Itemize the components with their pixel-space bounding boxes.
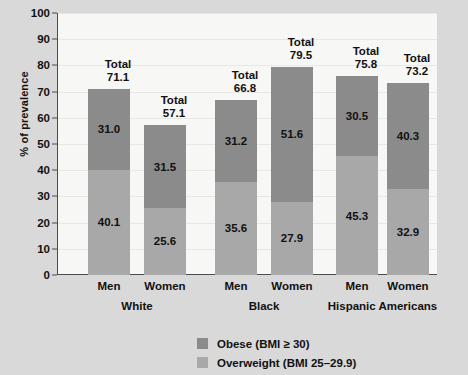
total-prefix: Total <box>353 45 380 57</box>
bar-value-overweight: 35.6 <box>215 222 257 234</box>
y-tick-mark <box>52 196 57 197</box>
total-prefix: Total <box>232 69 259 81</box>
x-tick-label-women: Women <box>378 280 438 292</box>
x-tick-label-men: Men <box>79 280 139 292</box>
legend-label: Overweight (BMI 25–29.9) <box>217 357 356 369</box>
gridline <box>57 39 437 40</box>
y-tick-mark <box>52 91 57 92</box>
total-prefix: Total <box>288 36 315 48</box>
bar-value-overweight: 27.9 <box>271 232 313 244</box>
y-tick-label: 50 <box>4 138 50 150</box>
y-tick-label: 40 <box>4 164 50 176</box>
y-tick-mark <box>52 39 57 40</box>
y-tick-mark <box>52 117 57 118</box>
bar-white-women: 31.525.6 <box>144 125 186 275</box>
y-tick-label: 80 <box>4 59 50 71</box>
y-tick-label: 70 <box>4 86 50 98</box>
total-prefix: Total <box>161 94 188 106</box>
bar-value-overweight: 32.9 <box>387 226 429 238</box>
total-prefix: Total <box>105 58 132 70</box>
bar-black-men: 31.235.6 <box>215 100 257 275</box>
y-tick-label: 20 <box>4 217 50 229</box>
bar-value-obese: 31.0 <box>88 123 130 135</box>
x-tick-label-men: Men <box>206 280 266 292</box>
y-tick-label: 90 <box>4 33 50 45</box>
bar-black-women: 51.627.9 <box>271 67 313 275</box>
legend-label: Obese (BMI ≥ 30) <box>217 338 310 350</box>
y-tick-label: 100 <box>4 7 50 19</box>
legend-swatch-icon <box>197 338 208 349</box>
bar-hispanic-americans-women: 40.332.9 <box>387 83 429 275</box>
y-tick-label: 30 <box>4 190 50 202</box>
y-tick-label: 60 <box>4 112 50 124</box>
y-tick-mark <box>52 170 57 171</box>
bar-value-obese: 31.5 <box>144 161 186 173</box>
bar-value-obese: 51.6 <box>271 128 313 140</box>
prevalence-stacked-bar-chart: % of prevalence 1009080706050403020100 3… <box>0 0 468 375</box>
total-value: 57.1 <box>144 107 204 120</box>
bar-value-obese: 31.2 <box>215 135 257 147</box>
legend-swatch-icon <box>197 357 208 368</box>
bar-total-label: Total79.5 <box>271 36 331 62</box>
bar-total-label: Total66.8 <box>215 69 275 95</box>
y-tick-mark <box>52 144 57 145</box>
total-prefix: Total <box>404 52 431 64</box>
bar-value-overweight: 40.1 <box>88 216 130 228</box>
y-tick-mark <box>52 275 57 276</box>
legend-item-obese: Obese (BMI ≥ 30) <box>197 334 356 353</box>
bar-value-overweight: 45.3 <box>336 210 378 222</box>
chart-legend: Obese (BMI ≥ 30)Overweight (BMI 25–29.9) <box>197 334 356 372</box>
y-axis-line <box>57 13 58 275</box>
bar-value-overweight: 25.6 <box>144 235 186 247</box>
group-label-hispanic-americans: Hispanic Americans <box>303 300 463 312</box>
bar-white-men: 31.040.1 <box>88 89 130 275</box>
y-tick-mark <box>52 13 57 14</box>
y-tick-mark <box>52 65 57 66</box>
total-value: 66.8 <box>215 82 275 95</box>
x-tick-label-women: Women <box>262 280 322 292</box>
x-tick-label-women: Women <box>135 280 195 292</box>
y-axis-tick-labels: 1009080706050403020100 <box>0 0 50 375</box>
y-tick-mark <box>52 222 57 223</box>
bar-total-label: Total73.2 <box>387 52 447 78</box>
bar-value-obese: 30.5 <box>336 110 378 122</box>
y-tick-label: 10 <box>4 243 50 255</box>
total-value: 79.5 <box>271 49 331 62</box>
total-value: 73.2 <box>387 65 447 78</box>
y-tick-label: 0 <box>4 269 50 281</box>
gridline <box>57 13 437 14</box>
bar-value-obese: 40.3 <box>387 130 429 142</box>
bar-total-label: Total57.1 <box>144 94 204 120</box>
legend-item-overweight: Overweight (BMI 25–29.9) <box>197 353 356 372</box>
total-value: 71.1 <box>88 71 148 84</box>
bar-total-label: Total71.1 <box>88 58 148 84</box>
bar-hispanic-americans-men: 30.545.3 <box>336 76 378 275</box>
y-tick-mark <box>52 248 57 249</box>
